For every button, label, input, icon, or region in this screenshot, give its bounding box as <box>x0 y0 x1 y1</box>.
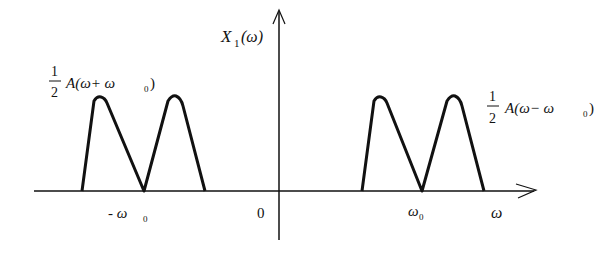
right-spectrum-curve <box>362 96 484 191</box>
right-label-expr: A(ω− ω <box>504 100 554 117</box>
tick-label-pos-omega0-sub: 0 <box>419 212 424 222</box>
spectrum-diagram: X 1 (ω) 1 2 A(ω+ ω 0 ) 1 2 A(ω− ω 0 ) - … <box>0 0 608 258</box>
right-label-expr-close: ) <box>589 100 594 117</box>
tick-label-neg-omega0: - ω <box>108 205 127 221</box>
left-spectrum-curve <box>82 96 205 191</box>
y-axis-label: X <box>220 27 232 46</box>
left-label-frac-num: 1 <box>51 64 58 79</box>
y-axis-label-arg: (ω) <box>241 28 263 46</box>
right-label-expr-sub: 0 <box>583 109 588 119</box>
right-label-frac-den: 2 <box>489 111 496 126</box>
x-axis-label: ω <box>491 204 502 221</box>
left-label-expr-close: ) <box>150 75 155 92</box>
left-label-frac-den: 2 <box>51 85 58 100</box>
tick-label-neg-omega0-sub: 0 <box>143 214 148 224</box>
y-axis-label-subscript: 1 <box>234 37 240 49</box>
left-label-expr-sub: 0 <box>144 84 149 94</box>
tick-label-pos-omega0: ω <box>408 203 419 219</box>
left-label-expr: A(ω+ ω <box>65 75 115 92</box>
origin-label: 0 <box>257 205 265 221</box>
right-label-frac-num: 1 <box>489 89 496 104</box>
